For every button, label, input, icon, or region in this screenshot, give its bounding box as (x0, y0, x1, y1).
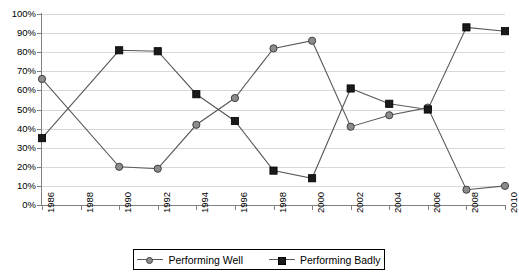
y-tick-mark (37, 186, 42, 187)
y-tick-mark (37, 14, 42, 15)
data-point-square (463, 24, 470, 31)
legend-label: Performing Badly (300, 254, 381, 266)
y-tick-mark (37, 33, 42, 34)
data-point-square (116, 47, 123, 54)
y-tick-mark (37, 90, 42, 91)
square-marker-icon (269, 255, 295, 265)
data-point-circle (270, 45, 277, 52)
data-point-circle (231, 94, 238, 101)
data-point-circle (463, 186, 470, 193)
data-point-square (308, 175, 315, 182)
data-point-square (154, 48, 161, 55)
data-point-square (193, 91, 200, 98)
legend-entry-performing-badly: Performing Badly (269, 254, 381, 266)
circle-marker-icon (137, 255, 163, 265)
y-tick-mark (37, 71, 42, 72)
y-tick-mark (37, 148, 42, 149)
legend-label: Performing Well (168, 254, 243, 266)
data-point-square (386, 100, 393, 107)
data-point-circle (38, 75, 45, 82)
data-point-circle (386, 112, 393, 119)
data-point-square (501, 28, 508, 35)
data-point-circle (347, 123, 354, 130)
data-point-square (38, 135, 45, 142)
y-tick-mark (37, 205, 42, 206)
data-point-circle (193, 121, 200, 128)
data-point-circle (308, 37, 315, 44)
data-point-circle (154, 165, 161, 172)
y-tick-mark (37, 110, 42, 111)
chart-legend: Performing Well Performing Badly (133, 249, 385, 270)
y-tick-mark (37, 167, 42, 168)
data-point-square (270, 167, 277, 174)
data-point-circle (501, 182, 508, 189)
y-tick-mark (37, 129, 42, 130)
data-point-square (424, 106, 431, 113)
data-point-square (347, 85, 354, 92)
data-point-square (231, 117, 238, 124)
data-point-circle (116, 163, 123, 170)
legend-entry-performing-well: Performing Well (137, 254, 243, 266)
y-tick-mark (37, 52, 42, 53)
